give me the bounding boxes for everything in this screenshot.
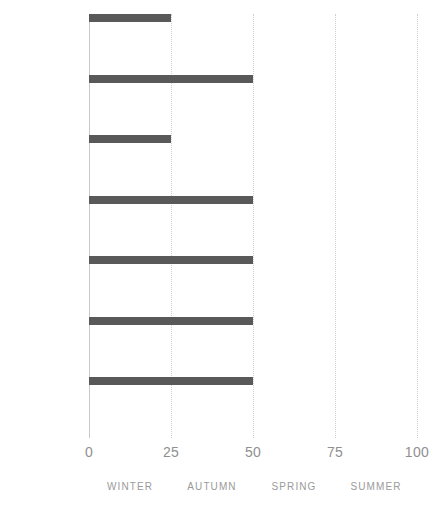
- category-band: Fulfilment: [89, 377, 417, 438]
- bar-chart: Foresight Formation Familiarity Forgoing…: [0, 0, 447, 515]
- plot-area: Foresight Formation Familiarity Forgoing…: [89, 14, 417, 438]
- bar-forgoing: [89, 196, 253, 204]
- category-band: Furnishing: [89, 256, 417, 317]
- x-tick-label-25: 25: [163, 444, 179, 460]
- x-tick-label-50: 50: [245, 444, 261, 460]
- bar-fine-tuning: [89, 317, 253, 325]
- category-band: Foresight: [89, 14, 417, 75]
- gridline-100: [417, 14, 419, 438]
- category-band: Forgoing: [89, 196, 417, 257]
- bar-familiarity: [89, 135, 171, 143]
- bar-foresight: [89, 14, 171, 22]
- x-tick-label-0: 0: [85, 444, 93, 460]
- bar-fulfilment: [89, 377, 253, 385]
- season-label-autumn: AUTUMN: [187, 481, 236, 492]
- season-label-spring: SPRING: [272, 481, 317, 492]
- category-band: Formation: [89, 75, 417, 136]
- bar-furnishing: [89, 256, 253, 264]
- category-band: Fine Tuning: [89, 317, 417, 378]
- x-tick-label-75: 75: [327, 444, 343, 460]
- x-tick-label-100: 100: [405, 444, 429, 460]
- bar-formation: [89, 75, 253, 83]
- category-band: Familiarity: [89, 135, 417, 196]
- season-label-summer: SUMMER: [350, 481, 401, 492]
- season-label-winter: WINTER: [107, 481, 153, 492]
